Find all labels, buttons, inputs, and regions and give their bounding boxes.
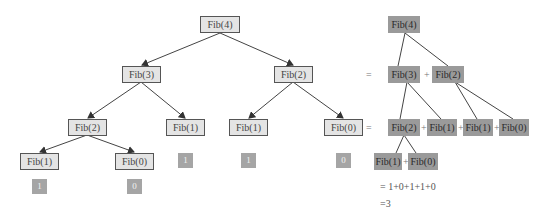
tree-node-fib0: Fib(0)	[115, 153, 154, 170]
expansion-term-fib0: Fib(0)	[408, 153, 438, 170]
sum-line: = 1+0+1+1+0	[380, 181, 436, 192]
equals-sign: =	[366, 66, 372, 83]
tree-node-fib0: Fib(0)	[324, 119, 363, 136]
leaf-value: 0	[336, 153, 351, 168]
tree-node-fib1: Fib(1)	[166, 119, 205, 136]
leaf-value: 0	[127, 179, 142, 194]
expansion-term-fib1: Fib(1)	[374, 153, 402, 170]
tree-node-fib4: Fib(4)	[200, 16, 240, 33]
leaf-value: 1	[178, 153, 193, 168]
edges-layer	[0, 0, 544, 216]
expansion-term-fib1: Fib(1)	[427, 119, 457, 136]
tree-node-fib3: Fib(3)	[122, 66, 161, 83]
tree-node-fib2: Fib(2)	[68, 119, 107, 136]
expansion-term-fib2: Fib(2)	[432, 66, 464, 83]
tree-node-fib2: Fib(2)	[274, 66, 313, 83]
plus-sign: +	[424, 66, 430, 83]
leaf-value: 1	[241, 153, 256, 168]
tree-node-fib1: Fib(1)	[20, 153, 59, 170]
equals-sign: =	[366, 119, 372, 136]
leaf-value: 1	[32, 179, 47, 194]
plus-sign: +	[421, 119, 427, 136]
expansion-term-fib2: Fib(2)	[388, 119, 420, 136]
tree-node-fib1: Fib(1)	[229, 119, 268, 136]
result-line: =3	[380, 198, 391, 209]
expansion-term-fib1: Fib(1)	[463, 119, 493, 136]
expansion-term-fib3: Fib(3)	[388, 66, 420, 83]
expansion-term-fib0: Fib(0)	[499, 119, 529, 136]
expansion-term-fib4: Fib(4)	[388, 16, 420, 33]
